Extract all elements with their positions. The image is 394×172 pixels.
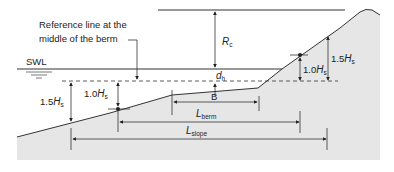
- callout-line-2: middle of the berm: [39, 33, 118, 44]
- dh-label: dh: [216, 70, 226, 82]
- upper-point: [298, 53, 302, 57]
- berm-breakwater-diagram: SWL Reference line at the middle of the …: [0, 0, 394, 172]
- lower-point: [116, 107, 120, 111]
- callout-line-1: Reference line at the: [39, 19, 127, 30]
- callout-leader: [128, 40, 137, 79]
- swl-label: SWL: [26, 56, 47, 67]
- water-level-icon: [26, 72, 52, 78]
- lower-1-5hs-label: 1.5Hs: [40, 96, 64, 108]
- lower-1-0hs-label: 1.0Hs: [84, 88, 108, 100]
- rc-label: Rc: [222, 36, 233, 48]
- structure-body: [17, 9, 380, 160]
- b-label: B: [211, 91, 217, 102]
